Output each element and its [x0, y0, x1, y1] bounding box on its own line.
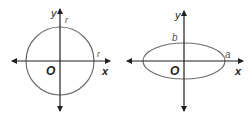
radius-label-horizontal: r [97, 49, 101, 59]
origin-label: O [170, 64, 180, 78]
ellipse-diagram: y b a O x [127, 9, 243, 111]
x-axis-label: x [101, 65, 109, 77]
radius-label-vertical: r [65, 15, 69, 25]
circle-diagram: y r r O x [12, 7, 110, 111]
x-axis-label: x [234, 65, 242, 77]
semi-major-label: a [225, 49, 231, 60]
y-axis-label: y [50, 7, 58, 19]
semi-minor-label: b [172, 32, 178, 43]
origin-label: O [46, 64, 56, 78]
y-axis-label: y [174, 9, 182, 21]
conic-diagrams: y r r O x y b a O x [0, 0, 251, 125]
